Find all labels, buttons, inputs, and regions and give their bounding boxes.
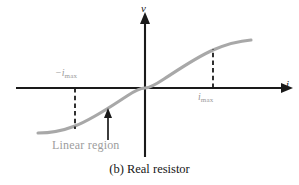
label-linear-region: Linear region [52, 139, 120, 151]
iv-characteristic-chart [0, 0, 299, 185]
label-imax: imax [198, 92, 213, 102]
y-axis [140, 12, 150, 157]
x-axis-label: i [286, 79, 289, 90]
label-negative-imax-subscript: max [65, 72, 78, 80]
figure-caption: (b) Real resistor [0, 162, 299, 177]
figure-container: v i −imax imax Linear region (b) Real re… [0, 0, 299, 185]
label-negative-imax-symbol: −i [55, 67, 65, 78]
linear-region-arrow-icon [104, 108, 112, 140]
y-axis-label: v [141, 3, 146, 14]
label-imax-subscript: max [201, 96, 214, 104]
label-negative-imax: −imax [55, 68, 77, 78]
